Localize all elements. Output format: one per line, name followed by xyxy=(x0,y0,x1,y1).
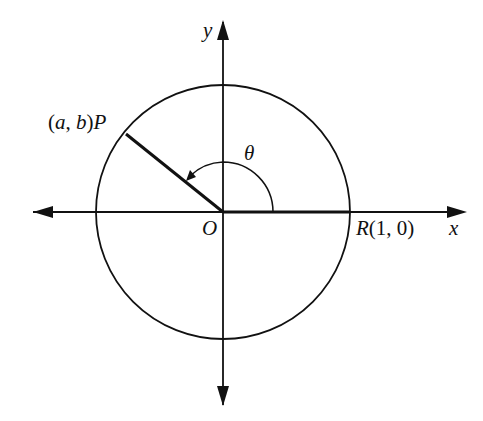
point-p-label: (a, b)P xyxy=(48,112,106,133)
x-axis-label: x xyxy=(449,218,458,239)
angle-label: θ xyxy=(244,143,254,164)
x-axis-left-arrow-icon xyxy=(33,206,53,218)
point-r-label: R(1, 0) xyxy=(356,218,414,239)
point-p-text: (a, b)P xyxy=(48,110,106,134)
origin-label: O xyxy=(202,218,217,239)
y-axis-up-arrow-icon xyxy=(217,20,229,40)
unit-circle-diagram: y x O θ (a, b)P R(1, 0) xyxy=(0,0,483,421)
y-axis-down-arrow-icon xyxy=(217,386,229,406)
radius-segment-op xyxy=(126,134,223,212)
y-axis-label: y xyxy=(203,20,212,41)
point-r-text: R(1, 0) xyxy=(356,216,414,240)
diagram-canvas xyxy=(0,0,483,421)
angle-arc xyxy=(190,162,273,212)
